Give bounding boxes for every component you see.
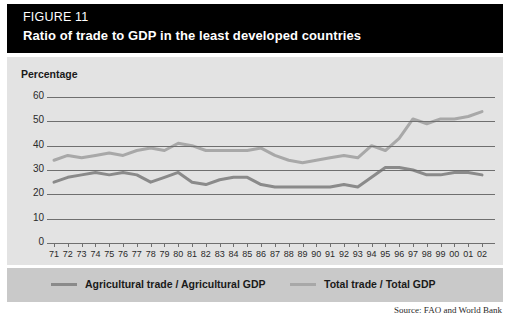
chart-legend: Agricultural trade / Agricultural GDP To…	[7, 268, 503, 302]
y-axis-tick-label: 40	[4, 139, 44, 150]
x-axis-tick	[316, 243, 317, 247]
legend-swatch-total	[290, 283, 316, 286]
grid-line	[47, 194, 495, 195]
legend-label-agricultural: Agricultural trade / Agricultural GDP	[85, 278, 265, 290]
x-axis-tick	[54, 243, 55, 247]
y-axis-tick-label: 10	[4, 212, 44, 223]
x-axis-tick-label: 02	[472, 249, 492, 259]
x-axis-tick	[289, 243, 290, 247]
legend-item-total: Total trade / Total GDP	[290, 278, 436, 290]
x-axis-tick	[137, 243, 138, 247]
chart-panel: Percentage 01020304050607172737475767778…	[7, 57, 503, 265]
x-axis-tick	[399, 243, 400, 247]
grid-line	[47, 121, 495, 122]
x-axis-tick	[372, 243, 373, 247]
x-axis-tick	[151, 243, 152, 247]
x-axis-tick	[109, 243, 110, 247]
x-axis-tick	[385, 243, 386, 247]
y-axis-tick-label: 50	[4, 114, 44, 125]
x-axis-tick	[275, 243, 276, 247]
x-axis-tick	[206, 243, 207, 247]
x-axis-tick	[178, 243, 179, 247]
x-axis-tick	[192, 243, 193, 247]
plot-area: 0102030405060717273747576777879808182838…	[47, 97, 495, 243]
legend-label-total: Total trade / Total GDP	[324, 278, 436, 290]
source-note: Source: FAO and World Bank	[394, 305, 502, 315]
x-axis-tick	[82, 243, 83, 247]
x-axis-tick	[482, 243, 483, 247]
grid-line	[47, 170, 495, 171]
x-axis-tick	[427, 243, 428, 247]
grid-line	[47, 219, 495, 220]
x-axis-tick	[358, 243, 359, 247]
y-axis-tick-label: 60	[4, 90, 44, 101]
x-axis-tick	[95, 243, 96, 247]
y-axis-label: Percentage	[21, 68, 78, 80]
figure-container: FIGURE 11 Ratio of trade to GDP in the l…	[0, 0, 510, 327]
x-axis-tick	[330, 243, 331, 247]
x-axis-tick	[247, 243, 248, 247]
x-axis-tick	[233, 243, 234, 247]
x-axis-tick	[220, 243, 221, 247]
x-axis-tick	[68, 243, 69, 247]
x-axis-tick	[468, 243, 469, 247]
grid-line	[47, 97, 495, 98]
x-axis-line	[47, 243, 495, 244]
y-axis-tick-label: 20	[4, 187, 44, 198]
y-axis-tick-label: 30	[4, 163, 44, 174]
x-axis-tick	[261, 243, 262, 247]
x-axis-tick	[123, 243, 124, 247]
y-axis-tick-label: 0	[4, 236, 44, 247]
x-axis-tick	[413, 243, 414, 247]
figure-title: Ratio of trade to GDP in the least devel…	[23, 27, 503, 45]
x-axis-tick	[454, 243, 455, 247]
x-axis-tick	[164, 243, 165, 247]
legend-item-agricultural: Agricultural trade / Agricultural GDP	[51, 278, 265, 290]
x-axis-tick	[344, 243, 345, 247]
figure-number: FIGURE 11	[23, 9, 503, 25]
x-axis-tick	[303, 243, 304, 247]
figure-title-bar: FIGURE 11 Ratio of trade to GDP in the l…	[7, 4, 503, 53]
legend-swatch-agricultural	[51, 283, 77, 286]
x-axis-tick	[441, 243, 442, 247]
grid-line	[47, 146, 495, 147]
series-line-total	[54, 112, 482, 163]
